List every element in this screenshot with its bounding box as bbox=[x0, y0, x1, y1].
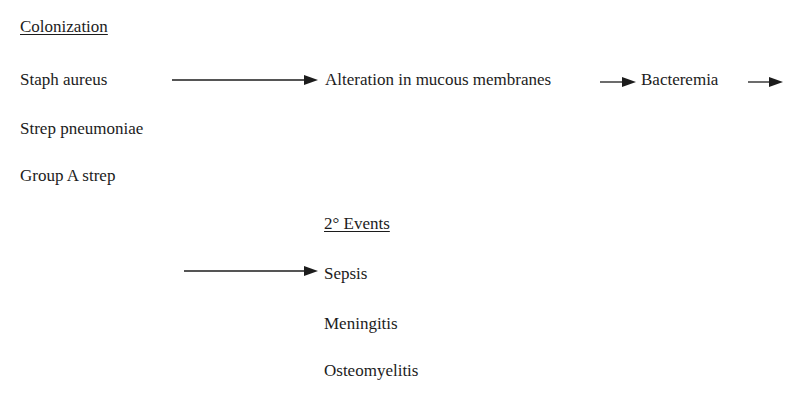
flow-arrows bbox=[0, 0, 807, 403]
arrow-bacteremia-onward bbox=[748, 77, 783, 87]
arrow-to-sepsis bbox=[184, 266, 318, 276]
arrow-colonization-to-alteration bbox=[172, 75, 318, 85]
arrow-alteration-to-bacteremia bbox=[600, 77, 636, 87]
